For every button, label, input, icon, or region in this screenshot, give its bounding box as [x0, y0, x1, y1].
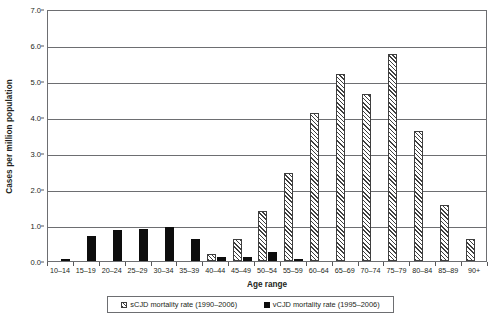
bar-group — [410, 11, 436, 261]
bar-scjd — [336, 74, 345, 261]
y-tick-mark — [41, 82, 44, 83]
bar-scjd — [388, 54, 397, 261]
bar-vcjd — [217, 257, 226, 261]
y-axis-title-text: Cases per million population — [5, 79, 14, 194]
legend-label-vcjd: vCJD mortality rate (1995–2006) — [273, 300, 380, 309]
bar-scjd — [258, 211, 267, 261]
chart-legend: sCJD mortality rate (1990–2006) vCJD mor… — [107, 296, 394, 313]
y-tick-mark — [41, 190, 44, 191]
x-tick-label: 10–14 — [50, 266, 70, 275]
x-axis-title: Age range — [47, 280, 487, 289]
legend-entry-vcjd: vCJD mortality rate (1995–2006) — [264, 300, 380, 309]
x-tick-label: 15–19 — [76, 266, 96, 275]
bar-group — [203, 11, 229, 261]
bar-scjd — [284, 173, 293, 261]
bar-vcjd — [165, 227, 174, 261]
y-tick-label: 7.0 — [30, 6, 41, 15]
bars-layer — [48, 11, 486, 261]
x-tick-mark — [487, 262, 488, 266]
bar-group — [152, 11, 178, 261]
bar-scjd — [414, 131, 423, 261]
bar-vcjd — [113, 230, 122, 261]
y-tick-mark — [41, 118, 44, 119]
x-tick-label: 45–49 — [231, 266, 251, 275]
y-tick-label: 6.0 — [30, 42, 41, 51]
bar-scjd — [362, 94, 371, 261]
bar-group — [307, 11, 333, 261]
bar-group — [229, 11, 255, 261]
bar-group — [100, 11, 126, 261]
x-tick-label: 40–44 — [205, 266, 225, 275]
bar-scjd — [440, 205, 449, 261]
legend-label-scjd: sCJD mortality rate (1990–2006) — [130, 300, 237, 309]
x-tick-label: 25–29 — [128, 266, 148, 275]
y-tick-label: 1.0 — [30, 222, 41, 231]
bar-group — [359, 11, 385, 261]
bar-vcjd — [294, 259, 303, 261]
legend-entry-scjd: sCJD mortality rate (1990–2006) — [121, 300, 237, 309]
bar-group — [462, 11, 488, 261]
bar-group — [126, 11, 152, 261]
x-axis-tick-labels: 10–1415–1920–2425–2930–3435–3940–4445–49… — [47, 266, 487, 280]
y-tick-label: 3.0 — [30, 150, 41, 159]
bar-vcjd — [191, 239, 200, 261]
x-tick-label: 90+ — [468, 266, 480, 275]
y-tick-mark — [41, 154, 44, 155]
x-tick-label: 70–74 — [361, 266, 381, 275]
bar-vcjd — [139, 229, 148, 261]
x-tick-label: 30–34 — [153, 266, 173, 275]
bar-group — [48, 11, 74, 261]
x-tick-label: 20–24 — [102, 266, 122, 275]
bar-scjd — [233, 239, 242, 261]
x-tick-label: 60–64 — [309, 266, 329, 275]
x-tick-label: 75–79 — [386, 266, 406, 275]
y-axis-title: Cases per million population — [0, 0, 18, 272]
y-tick-label: 5.0 — [30, 78, 41, 87]
bar-group — [384, 11, 410, 261]
bar-group — [436, 11, 462, 261]
bar-vcjd — [243, 257, 252, 261]
bar-scjd — [207, 254, 216, 261]
bar-vcjd — [61, 259, 70, 261]
x-tick-label: 85–89 — [438, 266, 458, 275]
y-tick-mark — [41, 10, 44, 11]
x-tick-label: 35–39 — [179, 266, 199, 275]
bar-group — [177, 11, 203, 261]
hatched-square-icon — [121, 302, 127, 308]
y-tick-label: 0.0 — [30, 258, 41, 267]
y-tick-label: 2.0 — [30, 186, 41, 195]
bar-scjd — [466, 239, 475, 261]
bar-group — [281, 11, 307, 261]
y-tick-mark — [41, 46, 44, 47]
x-tick-label: 55–59 — [283, 266, 303, 275]
plot-area — [47, 10, 487, 262]
y-tick-mark — [41, 226, 44, 227]
solid-black-square-icon — [264, 302, 270, 308]
bar-group — [74, 11, 100, 261]
bar-group — [333, 11, 359, 261]
cjd-mortality-bar-chart: Cases per million population 0.01.02.03.… — [0, 0, 501, 322]
y-tick-mark — [41, 262, 44, 263]
y-axis-tick-labels: 0.01.02.03.04.05.06.07.0 — [18, 10, 44, 262]
x-tick-label: 50–54 — [257, 266, 277, 275]
x-tick-label: 80–84 — [412, 266, 432, 275]
y-tick-label: 4.0 — [30, 114, 41, 123]
bar-scjd — [310, 113, 319, 261]
bar-vcjd — [268, 252, 277, 261]
bar-group — [255, 11, 281, 261]
x-tick-label: 65–69 — [335, 266, 355, 275]
bar-vcjd — [87, 236, 96, 261]
